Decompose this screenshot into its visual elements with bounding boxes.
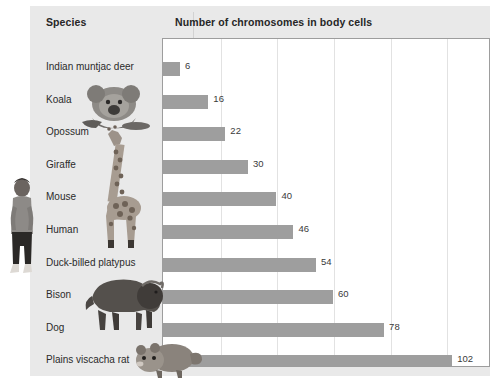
bar (163, 160, 248, 174)
species-label: Human (46, 224, 78, 235)
human-photo (0, 176, 44, 286)
bar (163, 95, 208, 109)
chart-row: 6 (163, 54, 489, 87)
chart-row: 102 (163, 347, 489, 367)
bar (163, 258, 316, 272)
chart-row: 22 (163, 119, 489, 152)
bar-value-label: 16 (213, 93, 224, 104)
species-label: Indian muntjac deer (46, 61, 134, 72)
species-label: Duck-billed platypus (46, 257, 136, 268)
species-label: Giraffe (46, 159, 76, 170)
chart-row: 30 (163, 152, 489, 185)
species-label: Dog (46, 322, 64, 333)
species-label: Plains viscacha rat (46, 354, 129, 365)
bar (163, 323, 384, 337)
bar (163, 192, 276, 206)
chart-row: 16 (163, 87, 489, 120)
species-label: Opossum (46, 126, 89, 137)
chart-row: 46 (163, 217, 489, 250)
plot-area: 61622304046546078102 (162, 38, 490, 367)
chart-row: 54 (163, 250, 489, 283)
bar (163, 225, 293, 239)
chart-row: 78 (163, 315, 489, 348)
bar-value-label: 6 (185, 60, 190, 71)
chart-row: 40 (163, 184, 489, 217)
species-label: Mouse (46, 191, 76, 202)
bar-value-label: 54 (321, 256, 332, 267)
bar-value-label: 78 (389, 321, 400, 332)
chart-row: 60 (163, 282, 489, 315)
column-header-chromosomes: Number of chromosomes in body cells (175, 16, 372, 28)
bar-value-label: 60 (338, 288, 349, 299)
species-label: Koala (46, 94, 72, 105)
column-header-species: Species (46, 16, 86, 28)
species-label: Bison (46, 289, 71, 300)
bar-value-label: 46 (298, 223, 309, 234)
bar-value-label: 102 (457, 353, 473, 364)
bar (163, 355, 452, 367)
bar (163, 62, 180, 76)
bar-value-label: 30 (253, 158, 264, 169)
bar-value-label: 22 (230, 125, 241, 136)
chart-page: Species Number of chromosomes in body ce… (0, 0, 497, 382)
bar (163, 290, 333, 304)
bar (163, 127, 225, 141)
bar-value-label: 40 (281, 190, 292, 201)
